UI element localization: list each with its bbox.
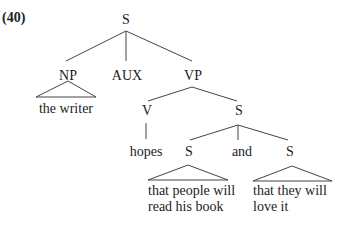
- node-s-right: S: [286, 144, 294, 159]
- node-v: V: [142, 103, 152, 118]
- branch-s-s1: [190, 125, 238, 140]
- node-s-embedded: S: [235, 103, 243, 118]
- branch-vp-v: [148, 87, 192, 101]
- s1-triangle: [148, 165, 228, 180]
- branch-s-np: [66, 31, 126, 61]
- node-conj-and: and: [232, 144, 252, 159]
- node-aux: AUX: [112, 68, 142, 83]
- leaf-hopes: hopes: [130, 144, 163, 159]
- node-np: NP: [59, 68, 77, 83]
- leaf-the-writer: the writer: [39, 101, 93, 116]
- syntax-tree-diagram: (40) S NP AUX VP the writer V S h: [0, 0, 348, 226]
- s2-triangle: [253, 166, 332, 181]
- branch-s-vp: [126, 31, 192, 61]
- leaf-left-line2: read his book: [148, 198, 223, 216]
- node-vp: VP: [184, 68, 202, 83]
- branch-vp-s: [192, 87, 237, 101]
- node-s-left: S: [185, 144, 193, 159]
- node-s-root: S: [122, 12, 130, 27]
- leaf-right-line2: love it: [253, 198, 288, 216]
- branch-s-s2: [238, 125, 288, 140]
- np-triangle: [36, 81, 96, 97]
